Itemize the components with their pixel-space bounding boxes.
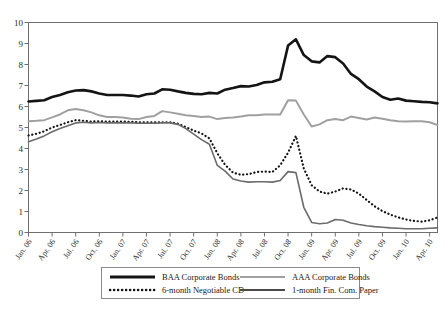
y-tick-label: 7 — [19, 81, 24, 91]
y-tick-label: 8 — [19, 60, 24, 70]
legend-label: 1-month Fin. Com. Paper — [292, 285, 379, 295]
interest-rate-line-chart: 012345678910 Jan. 06Apr. 06Jul. 06Oct. 0… — [0, 0, 446, 309]
legend-label: 6-month Negotiable CD — [162, 285, 244, 295]
y-tick-label: 6 — [19, 102, 24, 112]
y-tick-label: 0 — [19, 228, 24, 238]
legend-label: AAA Corporate Bonds — [292, 272, 370, 282]
chart-background — [0, 0, 446, 309]
y-tick-label: 10 — [14, 18, 24, 28]
y-tick-label: 4 — [19, 144, 24, 154]
legend-label: BAA Corporate Bonds — [162, 272, 239, 282]
y-tick-label: 1 — [19, 207, 24, 217]
y-tick-label: 3 — [19, 165, 24, 175]
y-tick-label: 9 — [19, 39, 24, 49]
y-tick-label: 2 — [19, 186, 24, 196]
chart-canvas: 012345678910 Jan. 06Apr. 06Jul. 06Oct. 0… — [0, 0, 446, 309]
y-tick-label: 5 — [19, 123, 24, 133]
chart-legend: BAA Corporate BondsAAA Corporate Bonds6-… — [102, 268, 379, 299]
